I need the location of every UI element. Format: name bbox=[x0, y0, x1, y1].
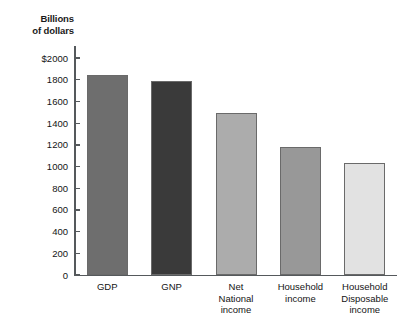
y-tick-mark bbox=[75, 79, 80, 80]
x-axis-label: GNP bbox=[139, 281, 203, 293]
y-tick-label: 800 bbox=[52, 182, 68, 195]
y-tick-label: 0 bbox=[63, 269, 68, 282]
y-tick-mark bbox=[75, 144, 80, 145]
y-tick-mark bbox=[75, 209, 80, 210]
x-axis-label: Household Disposable income bbox=[333, 281, 397, 316]
bar bbox=[87, 75, 128, 275]
y-tick-mark bbox=[75, 166, 80, 167]
x-axis-label: Household income bbox=[268, 281, 332, 304]
y-axis-title: Billions of dollars bbox=[16, 13, 74, 36]
bar bbox=[216, 113, 257, 275]
plot-area: $2000180016001400120010008006004002000 bbox=[75, 58, 397, 275]
y-tick-label: 1600 bbox=[47, 95, 68, 108]
x-axis-label: Net National income bbox=[204, 281, 268, 316]
y-tick-mark bbox=[75, 123, 80, 124]
y-tick-label: $2000 bbox=[42, 52, 68, 65]
y-tick-mark bbox=[75, 274, 80, 275]
y-tick-mark bbox=[75, 101, 80, 102]
y-tick-label: 200 bbox=[52, 247, 68, 260]
y-tick-label: 1400 bbox=[47, 117, 68, 130]
y-tick-mark bbox=[75, 231, 80, 232]
bar bbox=[280, 147, 321, 275]
y-tick-label: 1200 bbox=[47, 138, 68, 151]
y-tick-label: 1800 bbox=[47, 73, 68, 86]
y-tick-label: 400 bbox=[52, 225, 68, 238]
bar bbox=[344, 163, 385, 275]
y-tick-label: 600 bbox=[52, 203, 68, 216]
y-tick-label: 1000 bbox=[47, 160, 68, 173]
bar bbox=[151, 81, 192, 275]
bar-chart: Billions of dollars $2000180016001400120… bbox=[0, 0, 405, 330]
x-axis-label: GDP bbox=[75, 281, 139, 293]
y-tick-mark bbox=[75, 253, 80, 254]
y-tick-mark bbox=[75, 188, 80, 189]
y-tick-mark bbox=[75, 57, 80, 58]
